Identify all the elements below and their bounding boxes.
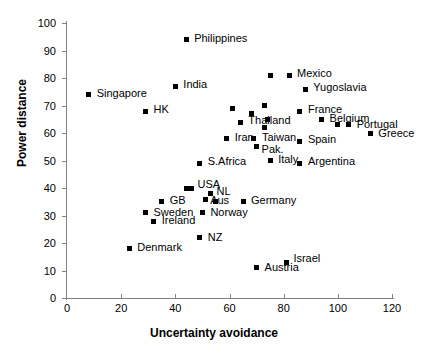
x-tick-label: 60 bbox=[210, 303, 250, 314]
data-point-marker bbox=[284, 260, 289, 265]
data-point-marker bbox=[127, 246, 132, 251]
data-point-marker bbox=[303, 87, 308, 92]
y-tick-mark bbox=[62, 216, 67, 217]
data-point-marker bbox=[213, 199, 218, 204]
y-tick-label: 30 bbox=[22, 211, 56, 222]
y-tick-mark bbox=[62, 78, 67, 79]
data-point-marker bbox=[251, 136, 256, 141]
data-point-marker bbox=[200, 210, 205, 215]
x-tick-label: 80 bbox=[264, 303, 304, 314]
data-point-marker bbox=[230, 106, 235, 111]
data-point-label: Denmark bbox=[137, 242, 182, 253]
data-point-label: Italy bbox=[278, 154, 298, 165]
x-axis-title: Uncertainty avoidance bbox=[0, 326, 428, 340]
data-point-marker bbox=[173, 84, 178, 89]
data-point-marker bbox=[254, 144, 259, 149]
data-point-marker bbox=[249, 111, 254, 116]
data-point-label: Spain bbox=[308, 134, 336, 145]
y-tick-mark bbox=[62, 298, 67, 299]
data-point-label: Germany bbox=[251, 195, 296, 206]
data-point-label: Ireland bbox=[162, 215, 196, 226]
data-point-marker bbox=[189, 186, 194, 191]
x-tick-label: 100 bbox=[318, 303, 358, 314]
data-point-marker bbox=[86, 92, 91, 97]
data-point-label: Israel bbox=[293, 253, 320, 264]
data-point-marker bbox=[368, 131, 373, 136]
data-point-marker bbox=[268, 158, 273, 163]
data-point-marker bbox=[262, 103, 267, 108]
x-tick-mark bbox=[392, 294, 393, 299]
data-point-marker bbox=[184, 37, 189, 42]
data-point-marker bbox=[238, 120, 243, 125]
data-point-marker bbox=[319, 117, 324, 122]
data-point-label: Norway bbox=[210, 207, 247, 218]
data-point-marker bbox=[143, 109, 148, 114]
x-tick-label: 0 bbox=[47, 303, 87, 314]
data-point-label: Taiwan bbox=[262, 132, 296, 143]
data-point-marker bbox=[241, 199, 246, 204]
data-point-label: Greece bbox=[378, 128, 414, 139]
y-tick-mark bbox=[62, 23, 67, 24]
data-point-marker bbox=[265, 117, 270, 122]
y-tick-mark bbox=[62, 51, 67, 52]
data-point-label: India bbox=[183, 79, 207, 90]
y-tick-label: 10 bbox=[22, 266, 56, 277]
data-point-label: Singapore bbox=[97, 88, 147, 99]
data-point-marker bbox=[159, 199, 164, 204]
x-tick-label: 20 bbox=[101, 303, 141, 314]
data-point-marker bbox=[262, 125, 267, 130]
y-tick-mark bbox=[62, 188, 67, 189]
x-tick-mark bbox=[338, 294, 339, 299]
data-point-label: GB bbox=[170, 195, 186, 206]
data-point-marker bbox=[297, 139, 302, 144]
data-point-marker bbox=[297, 109, 302, 114]
data-point-marker bbox=[287, 73, 292, 78]
y-axis-title: Power distance bbox=[15, 53, 29, 193]
data-point-marker bbox=[151, 219, 156, 224]
data-point-marker bbox=[346, 122, 351, 127]
x-tick-mark bbox=[175, 294, 176, 299]
data-point-marker bbox=[197, 161, 202, 166]
x-tick-mark bbox=[230, 294, 231, 299]
y-tick-mark bbox=[62, 106, 67, 107]
data-point-marker bbox=[224, 136, 229, 141]
data-point-marker bbox=[335, 122, 340, 127]
x-tick-mark bbox=[284, 294, 285, 299]
x-tick-mark bbox=[121, 294, 122, 299]
x-tick-label: 40 bbox=[155, 303, 195, 314]
scatter-plot-figure: 0102030405060708090100 020406080100120 P… bbox=[0, 0, 428, 364]
y-tick-mark bbox=[62, 133, 67, 134]
data-point-marker bbox=[143, 210, 148, 215]
data-point-marker bbox=[184, 186, 189, 191]
y-tick-label: 100 bbox=[22, 18, 56, 29]
data-point-label: Argentina bbox=[308, 156, 355, 167]
x-tick-label: 120 bbox=[372, 303, 412, 314]
data-point-marker bbox=[197, 235, 202, 240]
y-tick-mark bbox=[62, 161, 67, 162]
y-tick-mark bbox=[62, 243, 67, 244]
data-point-marker bbox=[203, 197, 208, 202]
data-point-label: HK bbox=[154, 104, 169, 115]
data-point-label: Philippines bbox=[194, 33, 247, 44]
data-point-label: Yugoslavia bbox=[313, 82, 366, 93]
y-tick-mark bbox=[62, 271, 67, 272]
data-point-label: Mexico bbox=[297, 68, 332, 79]
data-point-marker bbox=[254, 265, 259, 270]
y-tick-label: 20 bbox=[22, 238, 56, 249]
data-point-label: NZ bbox=[208, 232, 223, 243]
data-point-marker bbox=[268, 73, 273, 78]
data-point-label: S.Africa bbox=[208, 156, 247, 167]
data-point-marker bbox=[297, 161, 302, 166]
